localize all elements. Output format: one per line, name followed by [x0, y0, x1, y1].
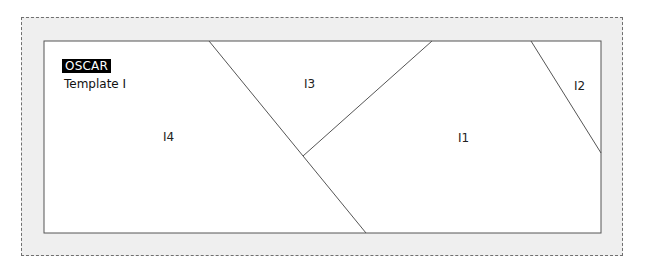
panel-layout — [0, 0, 645, 276]
panel-label-i2: I2 — [574, 79, 585, 93]
template-title: Template I — [64, 77, 126, 91]
panel-area — [44, 41, 601, 233]
panel-label-i1: I1 — [458, 131, 469, 145]
panel-label-i3: I3 — [304, 77, 315, 91]
panel-label-i4: I4 — [163, 130, 174, 144]
oscar-badge: OSCAR — [62, 59, 111, 73]
